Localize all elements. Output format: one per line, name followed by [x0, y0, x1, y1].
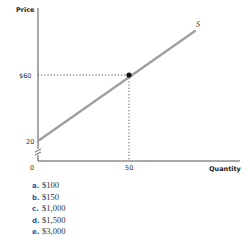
- answer-choice-b[interactable]: b.$150: [32, 192, 65, 204]
- choice-value: $100: [42, 180, 59, 190]
- supply-curve: [38, 31, 195, 141]
- choice-value: $150: [42, 192, 59, 202]
- x-tick-0: 0: [30, 164, 34, 172]
- choice-value: $3,000: [42, 226, 65, 236]
- answer-choice-c[interactable]: c.$1,000: [32, 203, 65, 215]
- curve-label: S: [196, 20, 200, 29]
- y-tick-20: 20: [26, 138, 34, 146]
- choice-value: $1,500: [42, 215, 65, 225]
- choice-key: a.: [32, 181, 42, 193]
- y-axis-label: Price: [16, 6, 35, 14]
- supply-chart: Price Quantity S $60 20 0 50: [0, 0, 250, 175]
- answer-choice-a[interactable]: a.$100: [32, 180, 65, 192]
- x-tick-50: 50: [125, 164, 133, 172]
- answer-choice-d[interactable]: d.$1,500: [32, 215, 65, 227]
- axis-break-icon: [35, 149, 41, 155]
- choice-value: $1,000: [42, 203, 65, 213]
- highlight-point: [126, 72, 131, 77]
- choice-key: e.: [32, 227, 42, 239]
- y-tick-60: $60: [19, 72, 31, 80]
- answer-choices: a.$100 b.$150 c.$1,000 d.$1,500 e.$3,000: [32, 180, 65, 238]
- answer-choice-e[interactable]: e.$3,000: [32, 226, 65, 238]
- choice-key: c.: [32, 204, 42, 216]
- x-axis-label: Quantity: [209, 165, 242, 173]
